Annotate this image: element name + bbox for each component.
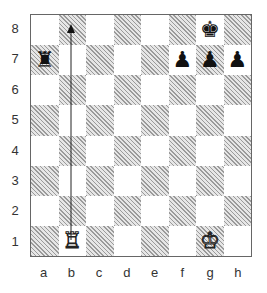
rank-label-2: 2 — [8, 203, 22, 218]
square-f2 — [169, 196, 197, 226]
square-f6 — [169, 75, 197, 105]
square-h4 — [224, 136, 252, 166]
square-h5 — [224, 105, 252, 135]
square-h7: ♟ — [224, 45, 252, 75]
file-label-b: b — [58, 265, 85, 280]
square-f3 — [169, 166, 197, 196]
square-d6 — [114, 75, 142, 105]
square-d4 — [114, 136, 142, 166]
square-f4 — [169, 136, 197, 166]
square-h3 — [224, 166, 252, 196]
square-b8 — [59, 15, 87, 45]
square-g4 — [196, 136, 224, 166]
square-c7 — [86, 45, 114, 75]
square-a4 — [31, 136, 59, 166]
rank-label-8: 8 — [8, 21, 22, 36]
square-c3 — [86, 166, 114, 196]
square-a3 — [31, 166, 59, 196]
rank-label-6: 6 — [8, 82, 22, 97]
square-f1 — [169, 226, 197, 256]
file-label-d: d — [113, 265, 140, 280]
square-b1: ♖ — [59, 226, 87, 256]
square-h8 — [224, 15, 252, 45]
square-f8 — [169, 15, 197, 45]
black-pawn-icon: ♟ — [172, 49, 192, 71]
square-g8: ♚ — [196, 15, 224, 45]
square-d3 — [114, 166, 142, 196]
black-pawn-icon: ♟ — [227, 49, 247, 71]
square-a1 — [31, 226, 59, 256]
square-b5 — [59, 105, 87, 135]
square-f7: ♟ — [169, 45, 197, 75]
file-label-h: h — [224, 265, 251, 280]
square-g1: ♔ — [196, 226, 224, 256]
square-b3 — [59, 166, 87, 196]
black-king-icon: ♚ — [200, 19, 220, 41]
square-e2 — [141, 196, 169, 226]
square-f5 — [169, 105, 197, 135]
rank-label-4: 4 — [8, 143, 22, 158]
square-a7: ♜ — [31, 45, 59, 75]
square-d5 — [114, 105, 142, 135]
square-c6 — [86, 75, 114, 105]
square-b7 — [59, 45, 87, 75]
square-g5 — [196, 105, 224, 135]
square-e4 — [141, 136, 169, 166]
white-rook-icon: ♖ — [62, 230, 82, 252]
square-g6 — [196, 75, 224, 105]
file-label-f: f — [169, 265, 196, 280]
square-a6 — [31, 75, 59, 105]
square-e8 — [141, 15, 169, 45]
square-a8 — [31, 15, 59, 45]
black-pawn-icon: ♟ — [200, 49, 220, 71]
file-label-e: e — [141, 265, 168, 280]
square-c1 — [86, 226, 114, 256]
square-c2 — [86, 196, 114, 226]
square-e6 — [141, 75, 169, 105]
square-b6 — [59, 75, 87, 105]
rank-label-1: 1 — [8, 234, 22, 249]
rank-label-3: 3 — [8, 173, 22, 188]
square-g3 — [196, 166, 224, 196]
square-d2 — [114, 196, 142, 226]
chess-board: ♚♜♟♟♟♖♔ — [30, 14, 252, 257]
file-label-g: g — [197, 265, 224, 280]
square-e3 — [141, 166, 169, 196]
black-rook-icon: ♜ — [35, 49, 55, 71]
square-e7 — [141, 45, 169, 75]
square-c5 — [86, 105, 114, 135]
square-e1 — [141, 226, 169, 256]
square-a5 — [31, 105, 59, 135]
rank-label-5: 5 — [8, 112, 22, 127]
square-b2 — [59, 196, 87, 226]
square-h1 — [224, 226, 252, 256]
square-g2 — [196, 196, 224, 226]
square-h6 — [224, 75, 252, 105]
square-b4 — [59, 136, 87, 166]
rank-label-7: 7 — [8, 51, 22, 66]
square-g7: ♟ — [196, 45, 224, 75]
square-a2 — [31, 196, 59, 226]
file-label-c: c — [86, 265, 113, 280]
square-d8 — [114, 15, 142, 45]
square-d7 — [114, 45, 142, 75]
square-h2 — [224, 196, 252, 226]
square-e5 — [141, 105, 169, 135]
square-c4 — [86, 136, 114, 166]
square-c8 — [86, 15, 114, 45]
white-king-icon: ♔ — [200, 230, 220, 252]
square-d1 — [114, 226, 142, 256]
file-label-a: a — [30, 265, 57, 280]
